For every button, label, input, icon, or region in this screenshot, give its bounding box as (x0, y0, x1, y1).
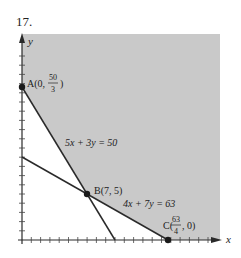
point-c (165, 237, 171, 243)
svg-text:4: 4 (174, 227, 178, 236)
x-axis-label: x (225, 233, 231, 245)
svg-text:63: 63 (172, 215, 180, 224)
label-5x-3y-50: 5x + 3y = 50 (65, 137, 117, 148)
y-axis-label: y (27, 35, 33, 47)
svg-text:, 0): , 0) (182, 220, 195, 232)
svg-text:3: 3 (51, 85, 55, 94)
feasible-region-graph: y x A(0, 50 3 ) 5x + 3y = 50 4x + 7y = 6… (0, 0, 241, 258)
svg-text:50: 50 (49, 73, 57, 82)
svg-text:A(0,: A(0, (27, 78, 45, 90)
svg-text:): ) (60, 78, 63, 90)
label-4x-7y-63: 4x + 7y = 63 (123, 198, 175, 209)
point-b (84, 191, 90, 197)
point-b-label: B(7, 5) (94, 185, 122, 197)
point-a (19, 84, 25, 90)
